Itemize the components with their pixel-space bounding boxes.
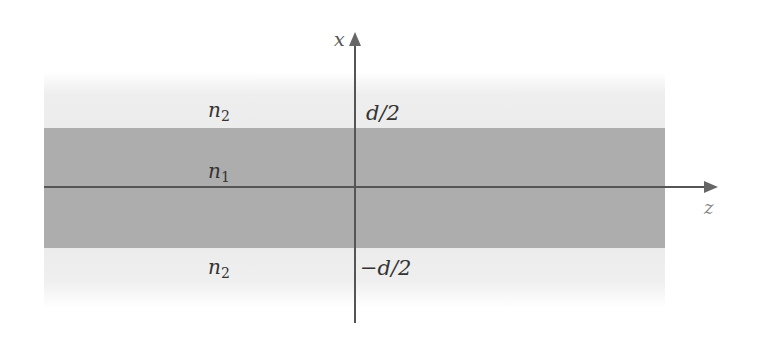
lower-cladding-index-label: n2: [208, 257, 230, 280]
z-axis-line: [44, 186, 708, 188]
x-axis-label: x: [334, 30, 345, 49]
core-index-label: n1: [208, 161, 230, 184]
slab-waveguide-diagram: x z n2 n1 n2 d/2 −d/2: [0, 0, 760, 339]
z-axis-arrow-icon: [704, 181, 718, 193]
x-axis-line: [354, 44, 356, 323]
x-axis-arrow-icon: [349, 32, 361, 46]
z-axis-label: z: [704, 199, 713, 217]
upper-boundary-label: d/2: [366, 103, 400, 124]
upper-cladding-index-label: n2: [208, 100, 230, 123]
lower-boundary-label: −d/2: [360, 258, 411, 279]
